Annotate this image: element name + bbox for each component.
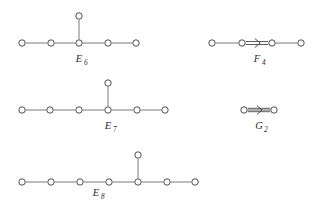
e7-node-5[interactable] bbox=[134, 107, 140, 113]
e6-node-2[interactable] bbox=[48, 40, 54, 46]
f4-node-1[interactable] bbox=[209, 40, 215, 46]
g2-label-base: G bbox=[255, 120, 263, 131]
e8-node-3[interactable] bbox=[77, 179, 83, 185]
e8-label: E8 bbox=[92, 187, 105, 201]
e8-node-2[interactable] bbox=[48, 179, 54, 185]
diagram-e8: E8 bbox=[19, 152, 198, 201]
e6-label-subscript: 6 bbox=[84, 59, 88, 67]
diagram-e7: E7 bbox=[19, 80, 168, 134]
e8-node-6[interactable] bbox=[164, 179, 170, 185]
e7-node-4[interactable] bbox=[105, 107, 111, 113]
dynkin-diagrams-figure: E6F4E7G2E8 bbox=[0, 0, 319, 209]
e6-node-3[interactable] bbox=[76, 40, 82, 46]
e7-node-2[interactable] bbox=[47, 107, 53, 113]
f4-node-4[interactable] bbox=[298, 40, 304, 46]
e6-label: E6 bbox=[75, 53, 88, 67]
e8-node-branch[interactable] bbox=[135, 152, 141, 158]
e7-label: E7 bbox=[104, 120, 117, 134]
f4-edge-2-3-arrowhead-icon bbox=[255, 39, 260, 47]
e6-node-branch[interactable] bbox=[76, 13, 82, 19]
f4-node-2[interactable] bbox=[239, 40, 245, 46]
e6-node-4[interactable] bbox=[105, 40, 111, 46]
diagram-e6: E6 bbox=[19, 13, 139, 67]
f4-label-base: F bbox=[253, 53, 261, 64]
e8-node-5[interactable] bbox=[135, 179, 141, 185]
g2-node-1[interactable] bbox=[241, 107, 247, 113]
e7-node-6[interactable] bbox=[162, 107, 168, 113]
e6-node-1[interactable] bbox=[19, 40, 25, 46]
e8-node-7[interactable] bbox=[192, 179, 198, 185]
e8-label-subscript: 8 bbox=[101, 193, 105, 201]
g2-edge-1-2 bbox=[248, 106, 270, 114]
f4-label-subscript: 4 bbox=[262, 59, 266, 67]
e6-node-5[interactable] bbox=[133, 40, 139, 46]
diagram-g2: G2 bbox=[241, 106, 277, 134]
e7-node-1[interactable] bbox=[19, 107, 25, 113]
diagram-canvas: E6F4E7G2E8 bbox=[0, 0, 319, 209]
g2-label-subscript: 2 bbox=[264, 126, 268, 134]
diagram-f4: F4 bbox=[209, 39, 304, 67]
f4-node-3[interactable] bbox=[269, 40, 275, 46]
e7-label-subscript: 7 bbox=[113, 126, 117, 134]
g2-node-2[interactable] bbox=[271, 107, 277, 113]
e7-node-branch[interactable] bbox=[105, 80, 111, 86]
g2-label: G2 bbox=[255, 120, 268, 134]
e8-node-1[interactable] bbox=[19, 179, 25, 185]
e7-label-base: E bbox=[104, 120, 112, 131]
e8-label-base: E bbox=[92, 187, 100, 198]
e6-label-base: E bbox=[75, 53, 83, 64]
f4-label: F4 bbox=[253, 53, 266, 67]
f4-edge-2-3 bbox=[246, 39, 268, 47]
e7-node-3[interactable] bbox=[76, 107, 82, 113]
e8-node-4[interactable] bbox=[106, 179, 112, 185]
